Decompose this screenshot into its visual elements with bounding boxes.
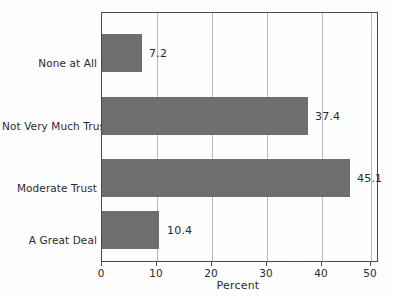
tick-mark-40: [321, 262, 322, 266]
tick-mark-0: [101, 262, 102, 266]
bar-chart-figure: None at All Not Very Much Trust Moderate…: [0, 0, 396, 299]
x-tick-label-10: 10: [149, 267, 162, 279]
bar-value-not-very-much-trust: 37.4: [315, 110, 340, 123]
x-tick-label-40: 40: [314, 267, 327, 279]
x-tick-label-0: 0: [98, 267, 105, 279]
gridline-30: [267, 13, 268, 261]
bar-value-moderate-trust: 45.1: [357, 172, 382, 185]
bar-moderate-trust[interactable]: [102, 159, 350, 197]
y-axis-label-moderate-trust: Moderate Trust: [2, 182, 97, 194]
bar-a-great-deal[interactable]: [102, 211, 159, 249]
y-axis-label-a-great-deal: A Great Deal: [2, 234, 97, 246]
bar-not-very-much-trust[interactable]: [102, 97, 308, 135]
x-tick-label-30: 30: [259, 267, 272, 279]
x-axis-title-text: Percent: [217, 279, 260, 292]
gridline-20: [212, 13, 213, 261]
tick-mark-50: [370, 262, 371, 266]
y-axis-label-not-very-much-trust: Not Very Much Trust: [2, 120, 97, 132]
bar-none-at-all[interactable]: [102, 34, 142, 72]
x-axis-title: Percent: [0, 279, 396, 292]
bar-value-none-at-all: 7.2: [149, 47, 167, 60]
x-tick-label-20: 20: [204, 267, 217, 279]
plot-area: 7.2 37.4 45.1 10.4: [101, 12, 378, 262]
tick-mark-30: [266, 262, 267, 266]
gridline-40: [322, 13, 323, 261]
tick-mark-20: [211, 262, 212, 266]
y-axis-category-labels: None at All Not Very Much Trust Moderate…: [0, 12, 97, 262]
tick-mark-10: [156, 262, 157, 266]
y-axis-label-none-at-all: None at All: [2, 57, 97, 69]
bar-value-a-great-deal: 10.4: [167, 224, 192, 237]
gridline-50: [371, 13, 372, 261]
x-tick-label-50: 50: [363, 267, 376, 279]
